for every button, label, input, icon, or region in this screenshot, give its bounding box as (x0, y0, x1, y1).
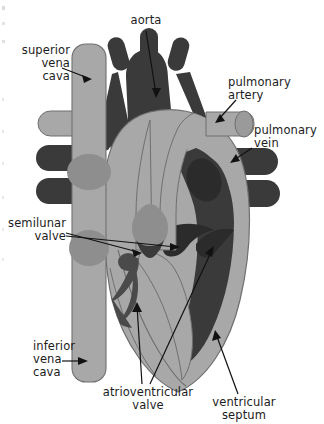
heart-diagram-page: superior vena cava aorta pulmonary arter… (0, 0, 324, 424)
label-pulmonary-artery: pulmonary artery (228, 76, 322, 102)
label-pulmonary-vein: pulmonary vein (254, 124, 324, 150)
vena-cava-junction-upper (67, 154, 111, 190)
pulmonary-artery-vessel (206, 111, 254, 137)
label-semilunar-valve: semilunar valve (0, 217, 66, 243)
label-inferior-vena-cava: inferior vena cava (33, 340, 97, 380)
label-aorta: aorta (108, 14, 184, 27)
label-ventricular-septum: ventricular septum (200, 396, 288, 422)
label-atrioventricular-valve: atrioventricular valve (88, 386, 208, 412)
label-superior-vena-cava: superior vena cava (0, 44, 70, 84)
vena-cava-trunk (67, 44, 111, 382)
